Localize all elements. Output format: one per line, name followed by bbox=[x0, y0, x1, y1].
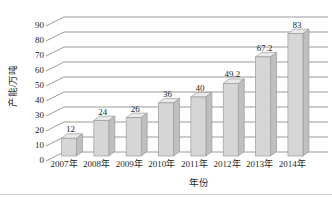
bar-front-face bbox=[288, 34, 303, 156]
x-tick-label: 2010年 bbox=[148, 158, 175, 169]
bar-value-label: 12 bbox=[66, 124, 75, 134]
bar-2014年 bbox=[288, 29, 309, 156]
bar-value-label: 49.2 bbox=[224, 69, 240, 79]
bar-2011年 bbox=[191, 93, 212, 157]
x-tick-label: 2011年 bbox=[181, 158, 208, 169]
bar-2008年 bbox=[94, 116, 115, 156]
bar-side-face bbox=[303, 29, 309, 156]
bar-front-face bbox=[62, 138, 77, 156]
y-grid-diagonal bbox=[46, 32, 64, 41]
y-tick-label: 30 bbox=[35, 110, 45, 120]
bar-2013年 bbox=[256, 52, 277, 156]
bar-front-face bbox=[223, 83, 238, 156]
x-tick-label: 2007年 bbox=[51, 158, 78, 169]
bar-side-face bbox=[174, 98, 180, 156]
chart-page: 0102030405060708090 122426364049.267.283… bbox=[0, 0, 332, 198]
bar-front-face bbox=[126, 118, 141, 156]
bar-value-label: 36 bbox=[163, 89, 173, 99]
y-tick-label: 40 bbox=[35, 95, 45, 105]
capacity-3d-bar-chart: 0102030405060708090 122426364049.267.283… bbox=[0, 0, 332, 198]
bar-front-face bbox=[159, 103, 174, 156]
y-tick-label: 90 bbox=[35, 20, 45, 30]
bar-2007年 bbox=[62, 134, 83, 156]
y-grid-diagonal bbox=[46, 107, 64, 116]
x-tick-label: 2009年 bbox=[116, 158, 143, 169]
bar-2009年 bbox=[126, 113, 147, 156]
bar-value-label: 67.2 bbox=[257, 43, 273, 53]
x-axis-title: 年份 bbox=[189, 177, 209, 188]
y-grid-diagonal bbox=[46, 17, 64, 26]
bar-side-face bbox=[141, 113, 147, 156]
x-tick-label: 2012年 bbox=[214, 158, 241, 169]
y-tick-label: 70 bbox=[35, 50, 45, 60]
bottom-divider bbox=[0, 194, 332, 195]
y-grid-diagonal bbox=[46, 92, 64, 101]
y-grid-diagonal bbox=[46, 47, 64, 56]
y-tick-label: 10 bbox=[35, 140, 45, 150]
bar-side-face bbox=[238, 79, 244, 156]
bar-front-face bbox=[191, 97, 206, 156]
bar-front-face bbox=[94, 121, 109, 156]
bar-2012年 bbox=[223, 79, 244, 156]
bar-value-label: 24 bbox=[98, 107, 108, 117]
bar-side-face bbox=[109, 116, 115, 156]
y-axis-title: 产能/万吨 bbox=[7, 65, 18, 108]
bar-value-label: 40 bbox=[195, 83, 205, 93]
bar-side-face bbox=[206, 93, 212, 157]
bar-side-face bbox=[271, 52, 277, 156]
y-tick-label: 50 bbox=[35, 80, 45, 90]
x-tick-label: 2013年 bbox=[246, 158, 273, 169]
bar-front-face bbox=[256, 57, 271, 156]
y-grid-diagonal bbox=[46, 122, 64, 131]
bar-value-label: 83 bbox=[292, 20, 302, 30]
y-grid-diagonal bbox=[46, 77, 64, 86]
y-tick-label: 80 bbox=[35, 35, 45, 45]
x-tick-label: 2014年 bbox=[279, 158, 306, 169]
x-tick-label: 2008年 bbox=[83, 158, 110, 169]
y-tick-label: 20 bbox=[35, 125, 45, 135]
y-grid-diagonal bbox=[46, 62, 64, 71]
y-tick-label: 60 bbox=[35, 65, 45, 75]
bar-2010年 bbox=[159, 98, 180, 156]
y-tick-label: 0 bbox=[40, 155, 45, 165]
bar-value-label: 26 bbox=[131, 104, 141, 114]
